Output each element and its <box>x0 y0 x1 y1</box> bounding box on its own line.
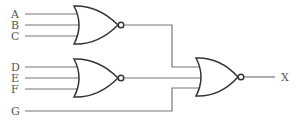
output-label-x: X <box>281 71 289 84</box>
input-label-c: C <box>11 30 19 43</box>
logic-circuit-diagram: A B C D E F G X <box>0 0 299 126</box>
input-wires-gate2 <box>25 67 80 89</box>
input-wires-gate1 <box>25 14 80 36</box>
nor-gate-2 <box>74 59 124 97</box>
nor-gate-3 <box>196 58 244 96</box>
nor-gate-1 <box>74 6 124 44</box>
input-label-g: G <box>11 105 20 118</box>
g-input-wire <box>25 88 200 111</box>
gate1-output-wire <box>124 25 200 67</box>
input-label-f: F <box>11 83 19 96</box>
